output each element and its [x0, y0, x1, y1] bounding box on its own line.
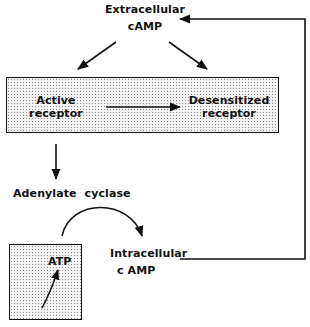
active-receptor-line2: receptor [28, 107, 84, 120]
desensitized-receptor-line1: Desensitized [184, 94, 274, 107]
node-extracellular-camp: Extracellular cAMP [100, 3, 190, 33]
node-desensitized-receptor: Desensitized receptor [184, 94, 274, 120]
desensitized-receptor-line2: receptor [184, 107, 274, 120]
arrow-feedback [180, 19, 305, 259]
node-intracellular-camp: Intracellular c AMP [110, 247, 187, 277]
extracellular-line2: cAMP [100, 20, 190, 33]
node-active-receptor: Active receptor [28, 94, 84, 120]
arrow-extracellular-to-desensitized [169, 42, 207, 69]
intracellular-line1: Intracellular [110, 247, 187, 260]
active-receptor-line1: Active [28, 94, 84, 107]
arrow-extracellular-to-active [78, 42, 116, 69]
node-atp: ATP [48, 255, 72, 268]
intracellular-line2: c AMP [117, 264, 187, 277]
arrow-atp-to-intracellular [62, 208, 142, 237]
node-adenylate-cyclase: Adenylate cyclase [13, 187, 131, 200]
extracellular-line1: Extracellular [100, 3, 190, 16]
camp-pathway-diagram: Extracellular cAMP Active receptor Desen… [0, 0, 310, 327]
